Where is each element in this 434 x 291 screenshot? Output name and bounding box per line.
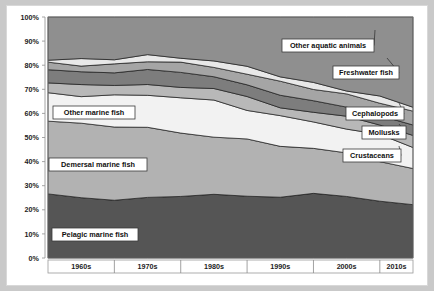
x-tick-label: 1970s	[138, 262, 158, 271]
x-tick-label: 1990s	[270, 262, 290, 271]
area-band-pelagic-marine-fish	[48, 193, 413, 258]
x-tick-label: 2010s	[386, 262, 406, 271]
x-tick-label: 1980s	[204, 262, 224, 271]
y-tick-label: 80%	[25, 61, 40, 70]
callout-label: Demersal marine fish	[61, 160, 135, 169]
callout-label: Freshwater fish	[339, 68, 393, 77]
callout-other-marine-fish: Other marine fish	[53, 106, 135, 119]
y-tick-label: 60%	[25, 109, 40, 118]
y-tick-label: 40%	[25, 157, 40, 166]
y-tick-label: 0%	[29, 254, 40, 263]
callout-mollusks: Mollusks	[362, 124, 406, 139]
y-tick-label: 70%	[25, 85, 40, 94]
callout-label: Mollusks	[368, 128, 399, 137]
y-tick-label: 30%	[25, 181, 40, 190]
callout-demersal-marine-fish: Demersal marine fish	[49, 158, 147, 171]
y-tick-label: 10%	[25, 230, 40, 239]
x-axis-band	[48, 260, 413, 273]
callout-label: Crustaceans	[350, 151, 394, 160]
y-tick-label: 20%	[25, 205, 40, 214]
y-tick-label: 50%	[25, 133, 40, 142]
y-tick-label: 100%	[21, 13, 40, 22]
x-tick-label: 2000s	[337, 262, 357, 271]
chart-card: 0%10%20%30%40%50%60%70%80%90%100%1960s19…	[7, 6, 427, 285]
callout-pelagic-marine-fish: Pelagic marine fish	[52, 228, 138, 241]
callout-label: Other aquatic animals	[290, 41, 366, 50]
callout-label: Cephalopods	[352, 109, 398, 118]
x-tick-label: 1960s	[71, 262, 91, 271]
callout-label: Pelagic marine fish	[62, 230, 129, 239]
callout-label: Other marine fish	[64, 108, 124, 117]
chart-svg: 0%10%20%30%40%50%60%70%80%90%100%1960s19…	[7, 6, 427, 285]
stacked-area-chart: 0%10%20%30%40%50%60%70%80%90%100%1960s19…	[7, 6, 427, 285]
y-tick-label: 90%	[25, 37, 40, 46]
